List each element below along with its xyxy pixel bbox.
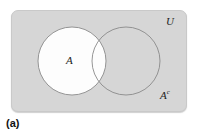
figure-caption: (a) <box>6 118 19 129</box>
venn-diagram-figure: U A Ac (a) <box>0 0 199 138</box>
universal-set-label: U <box>166 16 174 27</box>
complement-label-base: A <box>160 89 167 101</box>
complement-label-superscript: c <box>167 88 170 96</box>
set-a-label: A <box>66 55 73 66</box>
complement-label: Ac <box>160 90 170 101</box>
